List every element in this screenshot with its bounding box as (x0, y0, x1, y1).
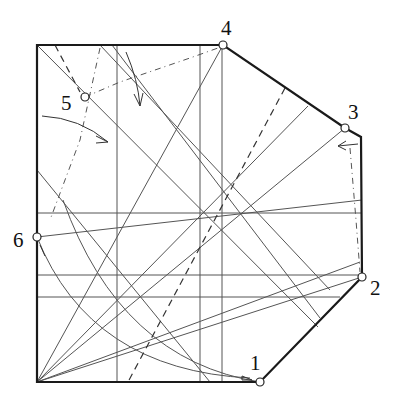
mountain-fold-left (50, 48, 100, 220)
point-label-4: 4 (221, 16, 232, 40)
point-4-marker (219, 41, 227, 49)
arc-crease-lower (37, 237, 250, 378)
point-6-marker (33, 233, 41, 241)
arrow-icon (40, 245, 45, 256)
point-5-marker (81, 93, 89, 101)
point-label-2: 2 (370, 276, 381, 300)
point-label-3: 3 (348, 100, 359, 124)
point-1-marker (256, 378, 264, 386)
arrow-icon (42, 116, 108, 142)
point-label-1: 1 (250, 351, 261, 375)
point-3-marker (341, 124, 349, 132)
arc-crease (63, 200, 260, 382)
valley-fold-diagonal (128, 88, 285, 382)
crease-pattern-diagram: 1 2 3 4 5 6 (0, 0, 396, 401)
point-label-6: 6 (13, 228, 24, 252)
point-2-marker (358, 273, 366, 281)
point-label-5: 5 (61, 91, 72, 115)
mountain-fold-right (350, 148, 360, 272)
